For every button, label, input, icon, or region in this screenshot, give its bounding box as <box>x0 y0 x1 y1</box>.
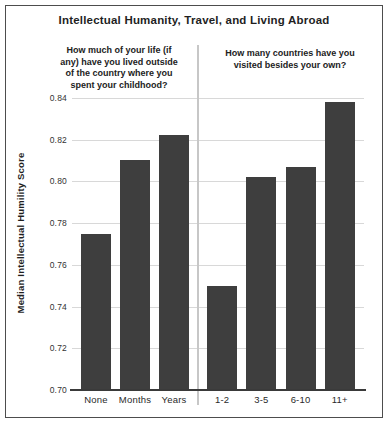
bar-None <box>81 234 111 391</box>
y-tick-label-0.70: 0.70 <box>50 385 67 395</box>
y-tick-label-0.74: 0.74 <box>50 302 67 312</box>
x-tick-labels-living-abroad: NoneMonthsYears <box>72 394 198 405</box>
x-tick-label-1-2: 1-2 <box>207 394 237 405</box>
x-tick-label-3-5: 3-5 <box>246 394 276 405</box>
x-tick-label-None: None <box>81 394 111 405</box>
y-tick-label-0.76: 0.76 <box>50 260 67 270</box>
chart-frame: Intellectual Humanity, Travel, and Livin… <box>5 5 383 418</box>
bar-Months <box>120 160 150 390</box>
bar-6-10 <box>286 167 316 390</box>
x-tick-labels-countries-visited: 1-23-56-1011+ <box>198 394 364 405</box>
bar-11+ <box>325 102 355 390</box>
bar-group-living-abroad <box>72 77 198 390</box>
question-countries-visited: How many countries have you visited besi… <box>204 48 376 71</box>
x-tick-label-6-10: 6-10 <box>286 394 316 405</box>
bar-group-countries-visited <box>198 77 364 390</box>
x-axis-line <box>70 389 366 391</box>
y-tick-label-0.78: 0.78 <box>50 218 67 228</box>
y-tick-label-0.82: 0.82 <box>50 135 67 145</box>
plot-area <box>72 77 364 390</box>
x-tick-label-Years: Years <box>159 394 189 405</box>
panel-divider <box>197 45 199 405</box>
bar-Years <box>159 135 189 390</box>
chart-title: Intellectual Humanity, Travel, and Livin… <box>6 14 382 26</box>
x-tick-label-11+: 11+ <box>325 394 355 405</box>
x-tick-label-Months: Months <box>120 394 150 405</box>
y-axis-label: Median Intellectual Humility Score <box>15 153 26 314</box>
y-tick-labels: 0.840.820.800.780.760.740.720.70 <box>34 77 67 390</box>
y-tick-label-0.80: 0.80 <box>50 176 67 186</box>
y-tick-label-0.84: 0.84 <box>50 93 67 103</box>
bar-3-5 <box>246 177 276 390</box>
bar-1-2 <box>207 286 237 390</box>
y-tick-label-0.72: 0.72 <box>50 343 67 353</box>
